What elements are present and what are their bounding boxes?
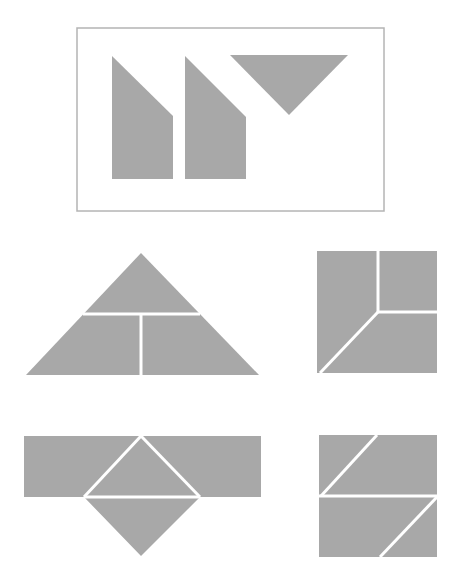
option-large-triangle[interactable] — [26, 253, 259, 375]
trapezoid-piece-2 — [185, 56, 246, 179]
option-rect-with-diamond[interactable] — [24, 436, 261, 556]
answer-options — [24, 251, 437, 557]
option-square-a[interactable] — [317, 251, 437, 373]
triangle-piece — [230, 55, 348, 115]
trapezoid-piece-1 — [112, 56, 173, 179]
option-square-b[interactable] — [319, 435, 437, 557]
given-pieces — [112, 55, 348, 179]
puzzle-diagram — [0, 0, 457, 588]
